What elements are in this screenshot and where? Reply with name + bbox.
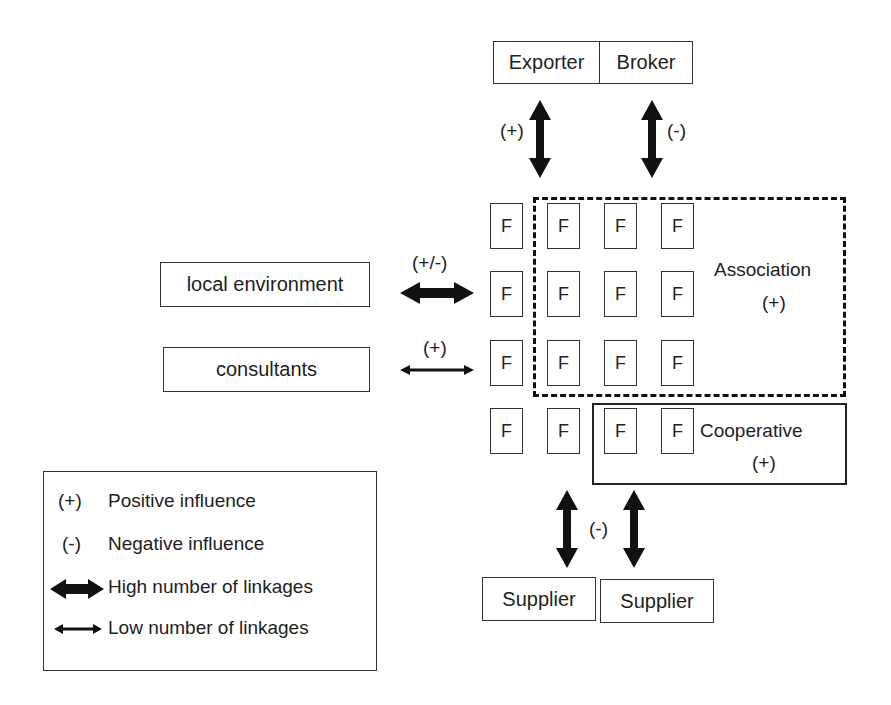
exporter-label: Exporter [509, 51, 585, 74]
consultants-influence-label: (+) [423, 337, 447, 359]
consultants-thin-double-arrow-icon [400, 365, 474, 375]
legend-negative-text: Negative influence [108, 533, 264, 555]
supplier-1-label: Supplier [502, 588, 575, 611]
firm-r2c2: F [547, 271, 580, 317]
legend-item-negative: (-) [62, 533, 81, 555]
legend-low-linkages-text: Low number of linkages [108, 617, 309, 639]
firm-r3c2: F [547, 340, 580, 386]
firm-r1c4: F [661, 203, 694, 249]
legend-high-linkages-text: High number of linkages [108, 576, 313, 598]
firm-r4c1: F [490, 408, 523, 454]
exporter-influence-label: (+) [500, 120, 524, 142]
broker-influence-label: (-) [667, 120, 686, 142]
association-sign: (+) [762, 292, 786, 314]
firm-r2c4: F [661, 271, 694, 317]
consultants-node: consultants [163, 347, 370, 392]
consultants-label: consultants [216, 358, 317, 381]
association-label: Association [714, 259, 811, 281]
firm-r4c2: F [547, 408, 580, 454]
legend-thick-double-arrow-icon [50, 579, 104, 599]
broker-thick-double-arrow-icon [641, 100, 663, 180]
cooperative-sign: (+) [752, 452, 776, 474]
local-environment-influence-label: (+/-) [412, 252, 447, 274]
local-environment-thick-double-arrow-icon [400, 282, 474, 304]
firm-r4c4: F [661, 408, 694, 454]
supplier-2-node: Supplier [600, 579, 714, 623]
firm-r2c1: F [490, 271, 523, 317]
legend-positive-symbol: (+) [58, 490, 82, 511]
supplier-1-node: Supplier [482, 577, 596, 621]
cooperative-label: Cooperative [700, 420, 802, 442]
supplier-1-thick-double-arrow-icon [556, 490, 578, 570]
broker-node: Broker [599, 41, 693, 84]
local-environment-label: local environment [187, 273, 344, 296]
legend-thin-double-arrow-icon [54, 624, 102, 634]
supplier-2-label: Supplier [620, 590, 693, 613]
supplier-influence-label: (-) [589, 518, 608, 540]
firm-r1c1: F [490, 203, 523, 249]
supplier-2-thick-double-arrow-icon [623, 490, 645, 570]
local-environment-node: local environment [160, 262, 370, 307]
legend: (+) Positive influence (-) Negative infl… [43, 471, 377, 671]
firm-r1c3: F [604, 203, 637, 249]
legend-item-positive: (+) [58, 490, 82, 512]
firm-r1c2: F [547, 203, 580, 249]
exporter-thick-double-arrow-icon [529, 100, 551, 180]
firm-r2c3: F [604, 271, 637, 317]
exporter-node: Exporter [493, 41, 600, 84]
firm-r3c1: F [490, 340, 523, 386]
firm-r3c4: F [661, 340, 694, 386]
firm-r4c3: F [604, 408, 637, 454]
legend-negative-symbol: (-) [62, 533, 81, 554]
legend-positive-text: Positive influence [108, 490, 256, 512]
firm-r3c3: F [604, 340, 637, 386]
broker-label: Broker [617, 51, 676, 74]
